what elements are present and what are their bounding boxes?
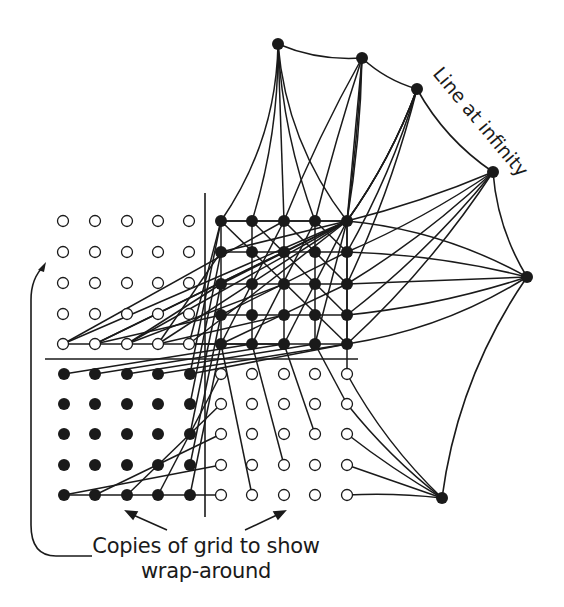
filled-dot xyxy=(246,309,258,321)
open-dot xyxy=(184,216,195,227)
filled-dot xyxy=(215,215,227,227)
bottom-right-copy-grid xyxy=(216,369,353,501)
open-dot xyxy=(216,429,227,440)
filled-dot xyxy=(278,309,290,321)
open-dot xyxy=(247,429,258,440)
line-to-infinity xyxy=(347,252,527,277)
filled-dot xyxy=(309,215,321,227)
filled-dot xyxy=(341,278,353,290)
open-dot xyxy=(153,216,164,227)
filled-dot xyxy=(58,459,70,471)
open-dot xyxy=(90,247,101,258)
open-dot xyxy=(342,460,353,471)
filled-dot xyxy=(121,459,133,471)
open-dot xyxy=(216,369,227,380)
filled-dot xyxy=(246,246,258,258)
filled-dot xyxy=(152,368,164,380)
open-dot xyxy=(58,278,69,289)
filled-dot xyxy=(215,338,227,350)
open-dot xyxy=(90,309,101,320)
line-to-infinity xyxy=(347,277,527,344)
filled-dot xyxy=(341,246,353,258)
filled-dot xyxy=(215,246,227,258)
left-pointer-arrow xyxy=(131,514,167,530)
open-dot xyxy=(122,216,133,227)
right-arrowhead-icon xyxy=(274,511,285,519)
filled-dot xyxy=(184,459,196,471)
line-to-infinity xyxy=(347,494,442,498)
filled-dot xyxy=(184,489,196,501)
infinity-point-vertical xyxy=(272,38,284,50)
line-to-infinity xyxy=(252,44,278,221)
filled-dot xyxy=(89,398,101,410)
grid-line xyxy=(64,465,221,495)
open-dot xyxy=(310,369,321,380)
filled-dot xyxy=(309,338,321,350)
open-dot xyxy=(342,490,353,501)
open-dot xyxy=(216,460,227,471)
open-dot xyxy=(247,490,258,501)
open-dot xyxy=(216,399,227,410)
filled-dot xyxy=(309,278,321,290)
filled-dot xyxy=(58,428,70,440)
filled-dot xyxy=(152,428,164,440)
open-dot xyxy=(247,369,258,380)
line-to-infinity xyxy=(278,44,347,221)
open-dot xyxy=(184,339,195,350)
open-dot xyxy=(310,460,321,471)
open-dot xyxy=(153,339,164,350)
open-dot xyxy=(122,247,133,258)
filled-dot xyxy=(89,489,101,501)
open-dot xyxy=(342,369,353,380)
right-pointer-arrow xyxy=(245,514,279,530)
filled-dot xyxy=(278,278,290,290)
filled-dot xyxy=(215,309,227,321)
bottom-left-copy-grid xyxy=(58,368,196,501)
infinity-point-slope-c xyxy=(487,166,499,178)
filled-dot xyxy=(309,246,321,258)
filled-dot xyxy=(278,215,290,227)
connecting-lines xyxy=(63,44,527,498)
line-to-infinity xyxy=(347,277,527,284)
filled-dot xyxy=(278,246,290,258)
filled-dot xyxy=(121,428,133,440)
open-dot xyxy=(279,369,290,380)
open-dot xyxy=(247,399,258,410)
filled-dot xyxy=(246,338,258,350)
filled-dot xyxy=(184,428,196,440)
open-dot xyxy=(58,247,69,258)
open-dot xyxy=(279,490,290,501)
caption: Copies of grid to show wrap-around xyxy=(60,534,352,584)
open-dot xyxy=(153,309,164,320)
line-to-infinity xyxy=(347,374,442,498)
open-dot xyxy=(153,247,164,258)
filled-dot xyxy=(121,398,133,410)
open-dot xyxy=(279,399,290,410)
open-dot xyxy=(310,429,321,440)
infinity-point-slope-b xyxy=(411,83,423,95)
open-dot xyxy=(58,309,69,320)
caption-line-2: wrap-around xyxy=(60,559,352,584)
open-dot xyxy=(184,247,195,258)
line-to-infinity xyxy=(347,434,442,498)
filled-dot xyxy=(152,459,164,471)
filled-dot xyxy=(341,338,353,350)
open-dot xyxy=(216,490,227,501)
filled-dot xyxy=(89,368,101,380)
open-dot xyxy=(153,278,164,289)
open-dot xyxy=(122,339,133,350)
open-dot xyxy=(58,339,69,350)
projective-plane-diagram: Line at infinity xyxy=(0,0,564,607)
open-dot xyxy=(184,278,195,289)
line-to-infinity xyxy=(347,465,442,498)
filled-dot xyxy=(89,459,101,471)
grid-line xyxy=(252,221,347,315)
filled-dot xyxy=(152,489,164,501)
open-dot xyxy=(247,460,258,471)
open-dot xyxy=(90,278,101,289)
filled-dot xyxy=(58,398,70,410)
open-dot xyxy=(310,490,321,501)
open-dot xyxy=(90,216,101,227)
infinity-point-slope-a xyxy=(356,52,368,64)
filled-dot xyxy=(341,309,353,321)
